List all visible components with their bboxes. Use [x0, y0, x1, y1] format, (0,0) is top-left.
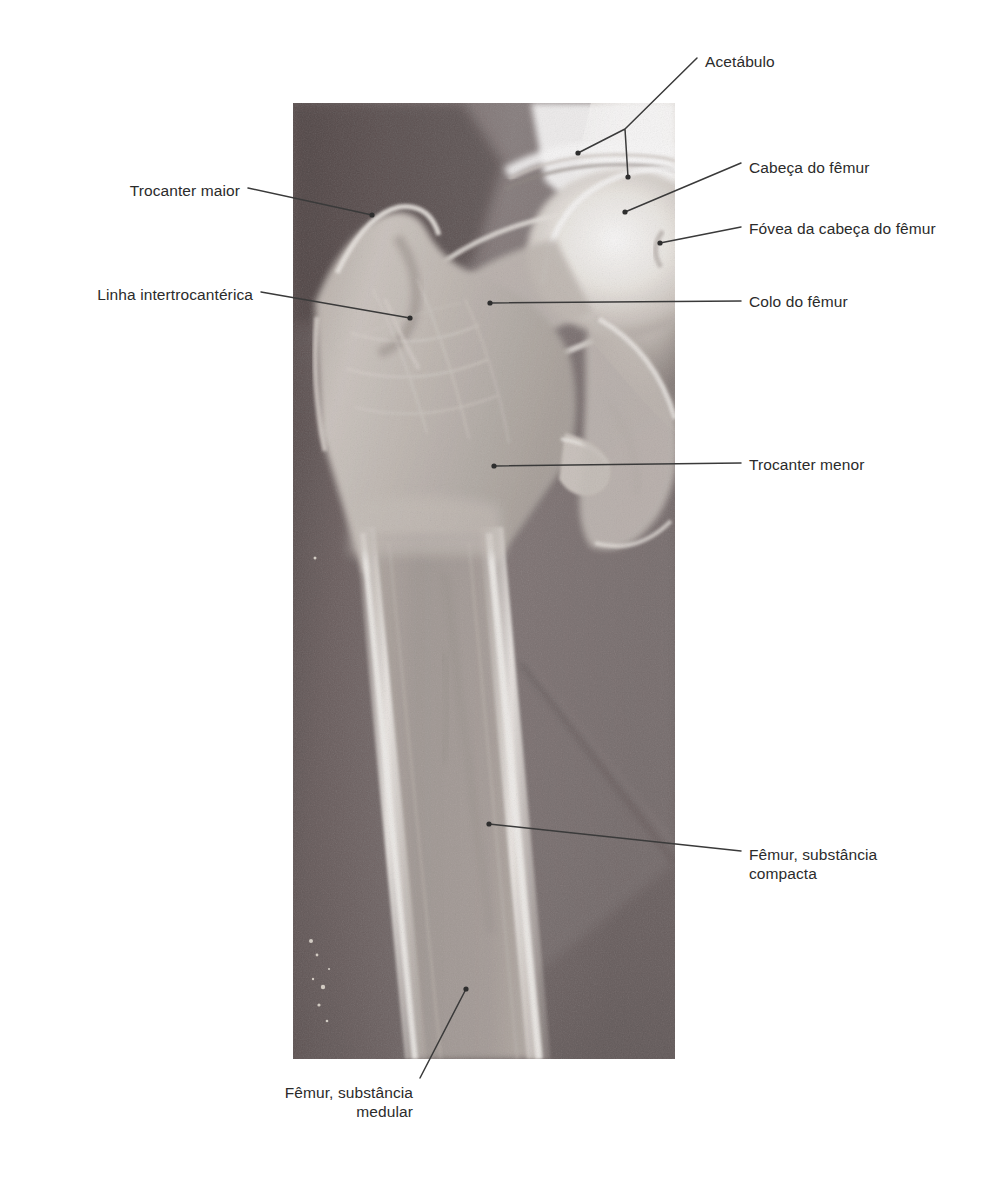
- label-line: compacta: [749, 865, 817, 882]
- label-line: Fóvea da cabeça do fêmur: [749, 220, 936, 237]
- label-line: Colo do fêmur: [749, 293, 848, 310]
- label-femur-substancia-medular: Fêmur, substânciamedular: [0, 1083, 413, 1121]
- label-trocanter-maior: Trocanter maior: [0, 181, 240, 200]
- label-line: Trocanter maior: [130, 182, 240, 199]
- anatomy-figure: Acetábulo Cabeça do fêmur Fóvea da cabeç…: [0, 0, 995, 1181]
- xray-image: [293, 103, 675, 1059]
- label-line: Acetábulo: [705, 53, 775, 70]
- label-line: Linha intertrocantérica: [97, 286, 253, 303]
- label-femur-substancia-compacta: Fêmur, substânciacompacta: [749, 845, 877, 883]
- label-linha-intertrocanterica: Linha intertrocantérica: [0, 285, 253, 304]
- label-trocanter-menor: Trocanter menor: [749, 455, 865, 474]
- label-fovea-da-cabeca-do-femur: Fóvea da cabeça do fêmur: [749, 219, 936, 238]
- label-cabeca-do-femur: Cabeça do fêmur: [749, 158, 869, 177]
- label-line: medular: [356, 1103, 413, 1120]
- label-line: Trocanter menor: [749, 456, 865, 473]
- label-acetabulo: Acetábulo: [705, 52, 775, 71]
- label-line: Fêmur, substância: [285, 1084, 413, 1101]
- label-line: Cabeça do fêmur: [749, 159, 869, 176]
- label-colo-do-femur: Colo do fêmur: [749, 292, 848, 311]
- label-line: Fêmur, substância: [749, 846, 877, 863]
